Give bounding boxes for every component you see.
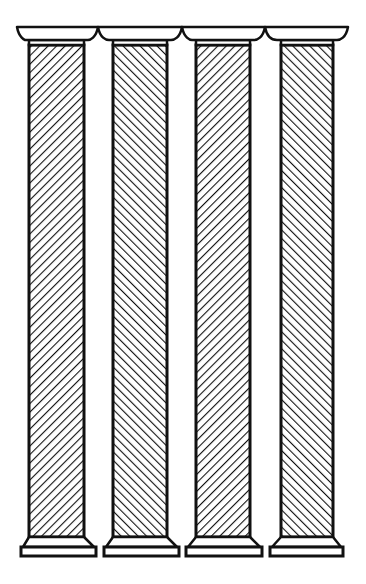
column-capital xyxy=(265,27,348,40)
column-plinth xyxy=(270,547,343,556)
column-4 xyxy=(265,27,348,556)
column-shaft xyxy=(113,45,167,537)
column-1 xyxy=(17,27,98,556)
column-shaft xyxy=(29,45,84,537)
column-shaft xyxy=(196,45,250,537)
column-capital xyxy=(98,27,182,40)
columns-svg xyxy=(0,0,366,584)
columns-illustration xyxy=(0,0,366,584)
column-3 xyxy=(182,27,265,556)
column-plinth xyxy=(21,547,96,556)
column-shaft xyxy=(281,45,333,537)
column-plinth xyxy=(104,547,179,556)
column-plinth xyxy=(186,547,262,556)
column-2 xyxy=(98,27,182,556)
column-capital xyxy=(182,27,265,40)
column-capital xyxy=(17,27,98,40)
